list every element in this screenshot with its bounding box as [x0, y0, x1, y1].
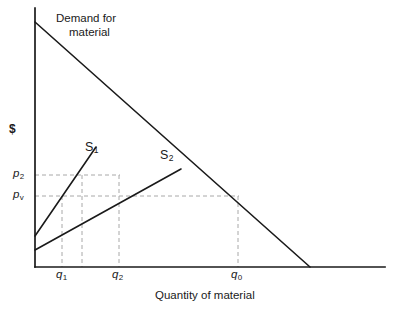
x-tick-label-q1: q1 — [56, 268, 67, 282]
y-tick-label-pv: pv — [13, 188, 24, 202]
axis-lines — [35, 8, 385, 267]
demand-curve — [35, 22, 310, 267]
x-tick-label-q0-sub: 0 — [237, 273, 242, 282]
plot-canvas — [0, 0, 399, 314]
supply-curve-2-label-sub: 2 — [168, 153, 173, 163]
supply-curve-2-label: S2 — [160, 148, 174, 163]
y-tick-label-pv-sub: v — [19, 193, 23, 202]
economics-supply-demand-figure: Demand for material S1 S2 $ Quantity of … — [0, 0, 399, 314]
supply-curve-1 — [35, 147, 96, 236]
x-tick-label-q2: q2 — [112, 268, 123, 282]
demand-curve-label-line2: material — [56, 25, 146, 39]
supply-curve-1-label: S1 — [85, 140, 99, 155]
demand-curve-label: Demand for material — [56, 11, 146, 40]
curves — [35, 22, 310, 267]
demand-curve-label-line1: Demand for — [56, 12, 116, 24]
y-tick-label-p2: p2 — [13, 167, 24, 181]
x-tick-label-q2-sub: 2 — [118, 273, 123, 282]
y-axis-title: $ — [9, 122, 16, 136]
y-tick-label-p2-sub: 2 — [19, 172, 24, 181]
supply-curve-1-label-sub: 1 — [93, 145, 98, 155]
reference-lines — [35, 175, 239, 267]
x-tick-label-q0: q0 — [231, 268, 242, 282]
supply-curve-2 — [35, 169, 181, 250]
x-axis-title: Quantity of material — [155, 289, 255, 303]
x-tick-label-q1-sub: 1 — [62, 273, 67, 282]
